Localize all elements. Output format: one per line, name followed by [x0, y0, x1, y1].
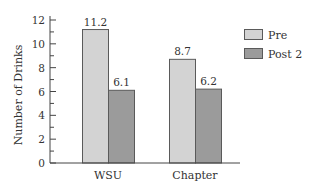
value-label: 6.1 — [113, 76, 130, 88]
value-label: 6.2 — [200, 75, 217, 87]
value-label: 8.7 — [174, 45, 191, 57]
y-tick-label: 0 — [38, 157, 45, 169]
legend-label: Post 2 — [268, 48, 302, 61]
bar-chart: 024681012 Number of Drinks 11.26.18.76.2… — [0, 0, 309, 189]
y-axis-label: Number of Drinks — [12, 44, 25, 145]
bar-post-2 — [109, 90, 135, 163]
bar-pre — [170, 59, 196, 163]
legend-swatch — [245, 49, 263, 59]
x-axis: WSUChapter — [50, 163, 240, 182]
legend-label: Pre — [268, 29, 287, 42]
y-tick-label: 2 — [38, 133, 45, 145]
legend: PrePost 2 — [245, 29, 303, 61]
y-axis: 024681012 — [32, 14, 56, 169]
legend-item-pre: Pre — [245, 29, 288, 42]
y-tick-label: 6 — [38, 86, 45, 98]
bars: 11.26.18.76.2 — [83, 16, 222, 163]
bar-post-2 — [196, 89, 222, 163]
category-label: Chapter — [172, 169, 218, 182]
y-tick-label: 4 — [38, 109, 45, 121]
legend-swatch — [245, 30, 263, 40]
y-tick-label: 10 — [32, 38, 45, 50]
value-label: 11.2 — [84, 16, 107, 28]
category-label: WSU — [94, 169, 122, 182]
y-tick-label: 8 — [38, 62, 45, 74]
y-tick-label: 12 — [32, 14, 45, 26]
bar-pre — [83, 30, 109, 163]
bar-group-chapter: 8.76.2 — [170, 45, 222, 163]
bar-group-wsu: 11.26.1 — [83, 16, 135, 163]
legend-item-post-2: Post 2 — [245, 48, 303, 61]
